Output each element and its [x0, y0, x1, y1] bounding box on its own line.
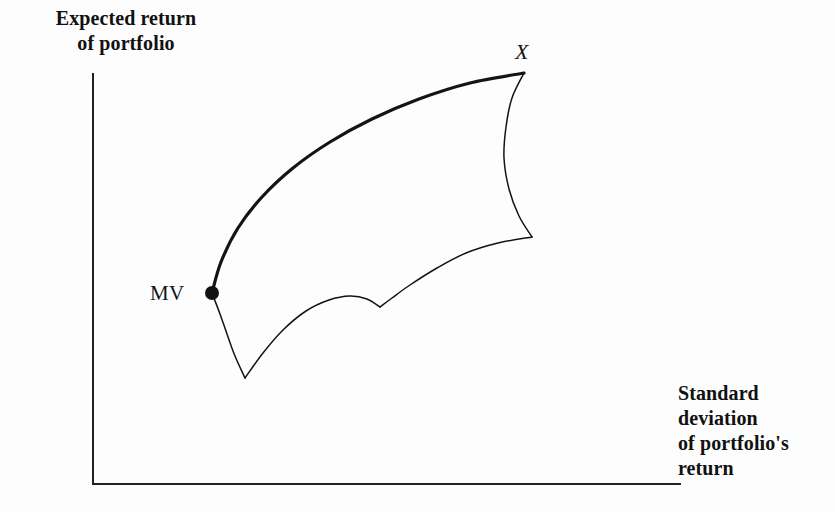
- efficient-frontier-curve: [212, 73, 524, 293]
- x-axis-label: Standard deviation of portfolio's return: [678, 381, 835, 481]
- mv-point: [205, 286, 219, 300]
- lower-left-boundary-curve: [245, 296, 380, 378]
- x-point-label: X: [515, 39, 528, 65]
- efficient-frontier-figure: Expected return of portfolio Standard de…: [0, 0, 835, 512]
- markers-group: [205, 286, 219, 300]
- y-axis-label: Expected return of portfolio: [6, 6, 246, 56]
- mv-point-label: MV: [150, 281, 185, 306]
- axes-group: [93, 74, 680, 484]
- right-boundary-curve: [504, 73, 532, 237]
- left-boundary-curve: [212, 293, 245, 378]
- lower-right-boundary-curve: [380, 237, 532, 307]
- feasible-set-boundary: [212, 73, 532, 378]
